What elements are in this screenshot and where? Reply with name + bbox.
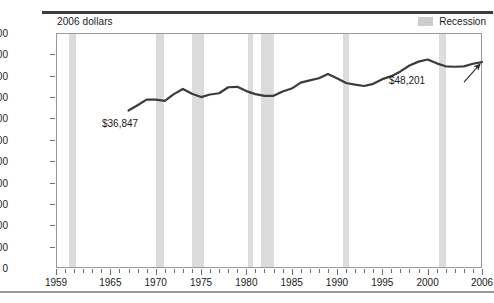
start-value-annotation: $36,847 [102, 118, 138, 129]
data-series-layer [0, 0, 494, 303]
figure-root: 2006 dollars Recession 05,00010,00015,00… [0, 0, 494, 303]
income-line [129, 59, 482, 110]
end-value-annotation: $48,201 [389, 75, 425, 86]
